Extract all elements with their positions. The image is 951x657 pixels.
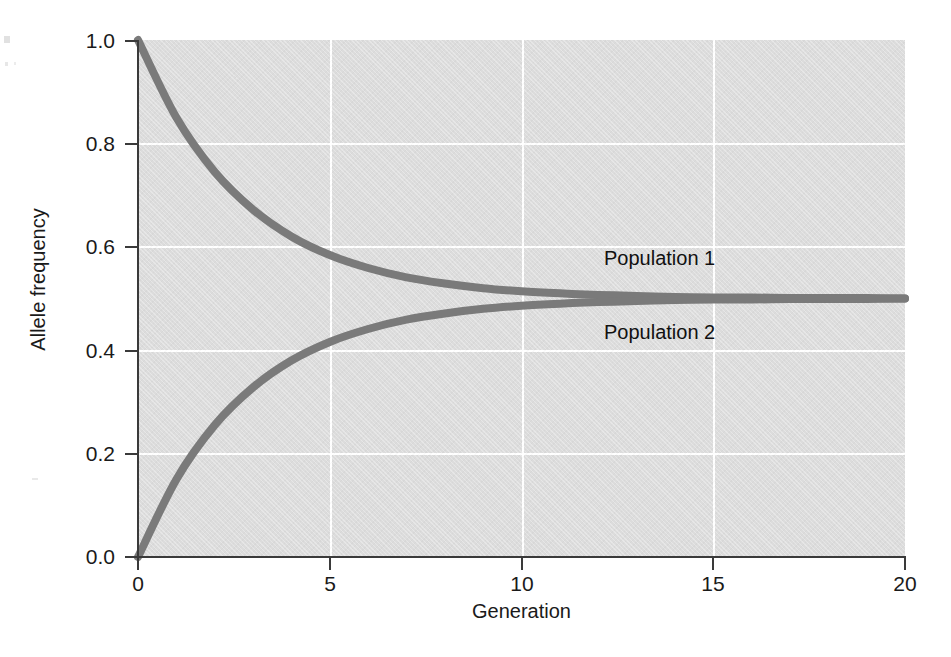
x-tick-label-0: 0 bbox=[108, 573, 168, 594]
series-label-population-1: Population 1 bbox=[604, 247, 715, 270]
scan-artifact bbox=[14, 62, 16, 65]
y-tick-label-1.0: 1.0 bbox=[55, 30, 115, 51]
y-tick-label-0.6: 0.6 bbox=[55, 236, 115, 257]
y-tick-1.0 bbox=[125, 40, 137, 42]
x-tick-5 bbox=[329, 557, 331, 570]
x-tick-10 bbox=[521, 557, 523, 570]
scan-artifact bbox=[5, 62, 8, 66]
scan-artifact bbox=[32, 478, 38, 480]
y-tick-0.4 bbox=[125, 350, 137, 352]
y-tick-label-0.8: 0.8 bbox=[55, 133, 115, 154]
figure-canvas: Population 1 Population 2 1.0 0.8 0.6 0.… bbox=[0, 0, 951, 657]
y-tick-0.0 bbox=[125, 556, 137, 558]
x-axis-title: Generation bbox=[138, 600, 905, 623]
x-tick-label-15: 15 bbox=[683, 573, 743, 594]
x-tick-label-5: 5 bbox=[300, 573, 360, 594]
y-tick-label-0.4: 0.4 bbox=[55, 340, 115, 361]
y-tick-0.2 bbox=[125, 453, 137, 455]
series-curves bbox=[138, 40, 905, 557]
y-axis-line bbox=[137, 40, 139, 559]
series-label-population-2: Population 2 bbox=[604, 321, 715, 344]
y-tick-0.6 bbox=[125, 246, 137, 248]
x-tick-20 bbox=[904, 557, 906, 570]
y-tick-label-0.0: 0.0 bbox=[55, 546, 115, 567]
series-line-population-1 bbox=[138, 40, 905, 299]
scan-artifact bbox=[4, 36, 10, 43]
x-tick-label-10: 10 bbox=[492, 573, 552, 594]
y-tick-0.8 bbox=[125, 143, 137, 145]
y-tick-label-0.2: 0.2 bbox=[55, 443, 115, 464]
series-line-population-2 bbox=[138, 299, 905, 558]
plot-panel: Population 1 Population 2 bbox=[138, 40, 905, 557]
x-tick-0 bbox=[137, 557, 139, 570]
x-tick-15 bbox=[712, 557, 714, 570]
y-axis-title: Allele frequency bbox=[27, 150, 50, 410]
x-tick-label-20: 20 bbox=[875, 573, 935, 594]
